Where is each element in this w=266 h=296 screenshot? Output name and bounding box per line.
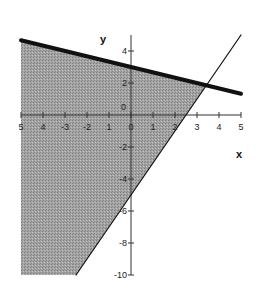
shaded-region bbox=[21, 40, 206, 275]
x-axis-label: x bbox=[236, 148, 243, 160]
y-tick-label: -10 bbox=[114, 270, 127, 280]
x-tick-label: 5 bbox=[238, 122, 243, 132]
x-tick-label: 4 bbox=[40, 122, 45, 132]
x-tick-label: 4 bbox=[216, 122, 221, 132]
y-axis-label: y bbox=[100, 33, 107, 45]
y-tick-label: -6 bbox=[119, 206, 127, 216]
x-tick-label: 5 bbox=[18, 122, 23, 132]
x-tick-label: 0 bbox=[128, 122, 133, 132]
x-tick-label: 2 bbox=[172, 122, 177, 132]
x-tick-label: -2 bbox=[83, 122, 91, 132]
y-tick-label: 4 bbox=[122, 46, 127, 56]
x-tick-label: 1 bbox=[150, 122, 155, 132]
y-tick-label: 2 bbox=[122, 78, 127, 88]
inequality-graph: 54-3-21012345420-2-4-6-8-10 x y bbox=[0, 0, 266, 296]
y-tick-label: -8 bbox=[119, 238, 127, 248]
x-tick-label: -3 bbox=[61, 122, 69, 132]
y-tick-label: -4 bbox=[119, 174, 127, 184]
solution-region bbox=[21, 40, 206, 275]
y-tick-label: -2 bbox=[119, 142, 127, 152]
y-tick-label: 0 bbox=[121, 102, 126, 112]
x-tick-label: 3 bbox=[194, 122, 199, 132]
x-tick-label: 1 bbox=[106, 122, 111, 132]
